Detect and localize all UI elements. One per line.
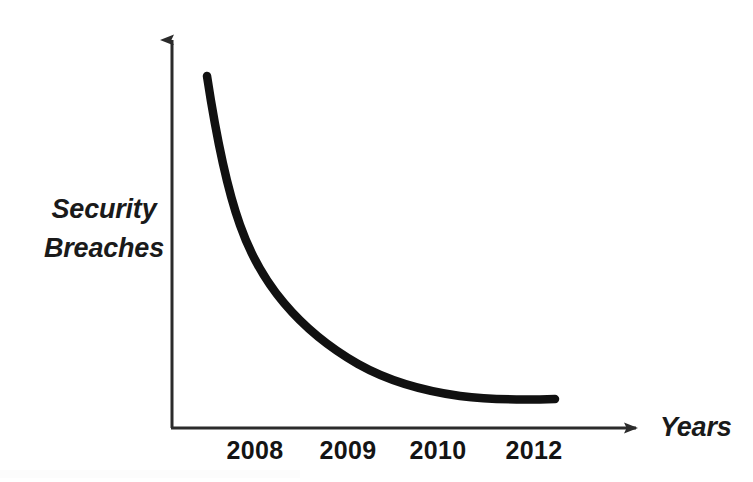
y-axis-title-line-2: Breaches	[38, 229, 170, 268]
x-tick-label-2012: 2012	[489, 436, 579, 465]
y-axis-title: Security Breaches	[38, 190, 170, 268]
x-axis-title: Years	[660, 410, 732, 444]
y-axis-title-line-1: Security	[38, 190, 170, 229]
x-tick-label-2010: 2010	[393, 436, 483, 465]
scan-artifact	[0, 470, 300, 478]
x-tick-label-2009: 2009	[303, 436, 393, 465]
chart-figure: Security Breaches Years 2008 2009 2010 2…	[0, 0, 753, 482]
data-series-line-security-breaches	[207, 76, 555, 400]
x-tick-label-2008: 2008	[210, 436, 300, 465]
